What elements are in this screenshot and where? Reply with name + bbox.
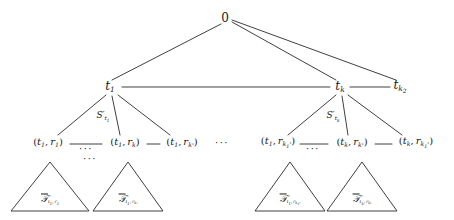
ellipsis-leaf-right: ··· <box>306 143 320 154</box>
triangle-label-tk-rkstar: 𝒯tk, rk* <box>353 193 372 206</box>
leaf-t1-rk: (t1, rk) <box>110 137 140 148</box>
edge-tk-to-tkrkstar <box>342 96 348 135</box>
triangle-label-t1-rk1star: 𝒯t1, rk1* <box>280 193 301 206</box>
leaf-tk-rkstar: (tk, rk*) <box>336 137 367 148</box>
triangle-label-t1-r1: 𝒯t1, r1 <box>41 193 59 206</box>
node-t1: t1 <box>105 80 115 94</box>
tree-diagram-figure: 0 t1 tk tk2 S′t1 S′tk (t1, r1) (t1, rk) … <box>0 0 454 220</box>
leaf-t1-rk1star: (t1, rk1*) <box>261 136 296 149</box>
edge-t1-to-t1rkstar <box>118 95 170 135</box>
node-tk: tk <box>335 80 344 94</box>
edge-label-S-tk: S′tk <box>326 111 339 122</box>
edge-root-to-t1 <box>112 24 221 80</box>
ellipsis-leaf-mid: ··· <box>215 137 229 148</box>
leaf-t1-r1: (t1, r1) <box>33 137 63 148</box>
edge-root-to-tk2 <box>232 20 396 80</box>
edge-tk-to-tkrk1star <box>348 95 402 135</box>
ellipsis-triangle-top: ··· <box>83 153 97 164</box>
subtree-triangles <box>11 162 397 211</box>
edge-t1-to-t1rk <box>112 96 120 135</box>
edge-root-to-tk <box>232 22 336 80</box>
node-root: 0 <box>221 12 229 24</box>
tree-edges-layer <box>0 0 454 220</box>
triangle-label-t1-rkstar: 𝒯t1, rk* <box>119 193 138 206</box>
leaf-tk-rk1star: (tk, rk1*) <box>399 136 433 149</box>
edge-label-S-t1: S′t1 <box>96 111 109 122</box>
node-tk2: tk2 <box>393 79 406 95</box>
leaf-t1-rkstar: (t1, rk*) <box>166 137 197 148</box>
